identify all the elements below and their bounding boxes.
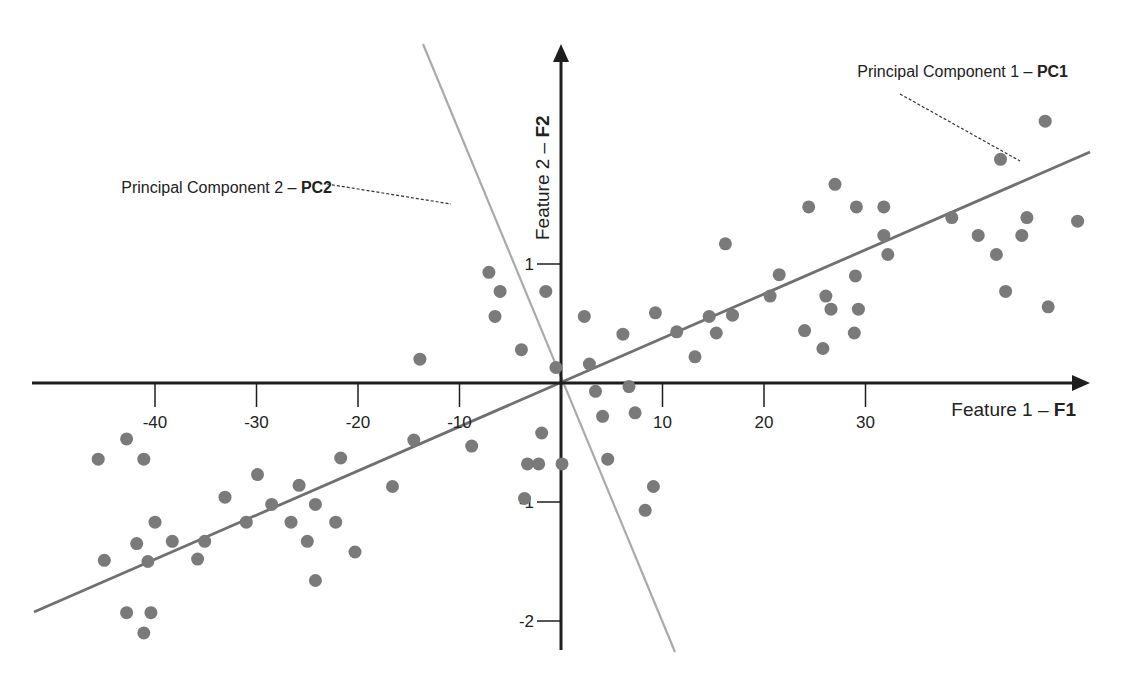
data-point xyxy=(98,554,111,567)
data-point xyxy=(309,498,322,511)
x-tick-label: 30 xyxy=(856,413,875,432)
data-point xyxy=(850,200,863,213)
pc1-annotation: Principal Component 1 – PC1 xyxy=(857,63,1068,161)
data-point xyxy=(639,504,652,517)
data-point xyxy=(219,491,232,504)
x-tick-label: 20 xyxy=(755,413,774,432)
y-tick-label: -2 xyxy=(519,612,534,631)
y-axis-ticks: 1-1-2 xyxy=(519,255,561,631)
data-point xyxy=(994,153,1007,166)
pc1-leader-line xyxy=(900,94,1020,161)
data-point xyxy=(647,480,660,493)
data-point xyxy=(166,535,179,548)
pc2-leader-line xyxy=(327,184,451,204)
data-point xyxy=(877,200,890,213)
data-point xyxy=(407,434,420,447)
data-point xyxy=(990,248,1003,261)
data-point xyxy=(191,553,204,566)
data-point xyxy=(532,457,545,470)
data-point xyxy=(773,268,786,281)
data-point xyxy=(494,285,507,298)
pc1-label: Principal Component 1 – PC1 xyxy=(857,63,1068,80)
data-point xyxy=(482,266,495,279)
data-point xyxy=(198,535,211,548)
x-tick-label: 10 xyxy=(653,413,672,432)
pca-scatter-chart: -40-30-20-10102030 1-1-2 Feature 1 – F1 … xyxy=(0,0,1128,680)
data-point xyxy=(265,498,278,511)
data-point xyxy=(848,327,861,340)
data-point xyxy=(515,343,528,356)
data-point xyxy=(710,327,723,340)
data-point xyxy=(999,285,1012,298)
data-point xyxy=(465,440,478,453)
data-point xyxy=(601,453,614,466)
data-point xyxy=(137,626,150,639)
data-point xyxy=(596,410,609,423)
data-point xyxy=(309,574,322,587)
data-point xyxy=(549,361,562,374)
data-point xyxy=(144,606,157,619)
data-point xyxy=(137,453,150,466)
data-point xyxy=(240,516,253,529)
data-point xyxy=(689,350,702,363)
data-point xyxy=(130,537,143,550)
data-point xyxy=(1071,215,1084,228)
data-point xyxy=(703,310,716,323)
data-point xyxy=(518,492,531,505)
data-point xyxy=(293,479,306,492)
data-point xyxy=(649,306,662,319)
x-axis-label: Feature 1 – F1 xyxy=(951,399,1076,420)
data-point xyxy=(881,248,894,261)
data-point xyxy=(1042,300,1055,313)
x-tick-label: -20 xyxy=(346,413,371,432)
data-point xyxy=(719,237,732,250)
data-point xyxy=(802,200,815,213)
data-point xyxy=(521,457,534,470)
data-point xyxy=(629,406,642,419)
data-point xyxy=(329,516,342,529)
y-axis-arrow-icon xyxy=(553,44,569,62)
data-point xyxy=(301,535,314,548)
data-point xyxy=(120,432,133,445)
data-point xyxy=(849,269,862,282)
data-point xyxy=(829,178,842,191)
y-tick-label: 1 xyxy=(525,255,534,274)
data-point xyxy=(798,324,811,337)
data-point xyxy=(578,310,591,323)
data-point xyxy=(1020,211,1033,224)
data-point xyxy=(877,229,890,242)
data-point xyxy=(539,285,552,298)
data-point xyxy=(764,290,777,303)
data-point xyxy=(816,342,829,355)
data-point xyxy=(1039,115,1052,128)
data-point xyxy=(349,546,362,559)
data-point xyxy=(489,310,502,323)
data-point xyxy=(386,480,399,493)
data-point xyxy=(149,516,162,529)
data-point xyxy=(334,452,347,465)
data-point xyxy=(120,606,133,619)
x-tick-label: -40 xyxy=(143,413,168,432)
data-point xyxy=(726,309,739,322)
pc2-label: Principal Component 2 – PC2 xyxy=(121,179,332,196)
data-point xyxy=(972,229,985,242)
x-axis-arrow-icon xyxy=(1072,375,1090,391)
data-point xyxy=(852,303,865,316)
data-point xyxy=(92,453,105,466)
data-point xyxy=(556,457,569,470)
x-tick-label: -10 xyxy=(447,413,472,432)
pc2-annotation: Principal Component 2 – PC2 xyxy=(121,179,451,204)
x-axis-ticks: -40-30-20-10102030 xyxy=(143,383,875,432)
data-point xyxy=(589,385,602,398)
data-point xyxy=(945,211,958,224)
data-point xyxy=(285,516,298,529)
y-axis-label: Feature 2 – F2 xyxy=(532,115,553,240)
data-point xyxy=(413,353,426,366)
data-point xyxy=(535,427,548,440)
data-point xyxy=(825,303,838,316)
data-point xyxy=(670,325,683,338)
data-point xyxy=(1015,229,1028,242)
data-point xyxy=(251,468,264,481)
y-axis xyxy=(553,44,569,650)
data-point xyxy=(141,555,154,568)
